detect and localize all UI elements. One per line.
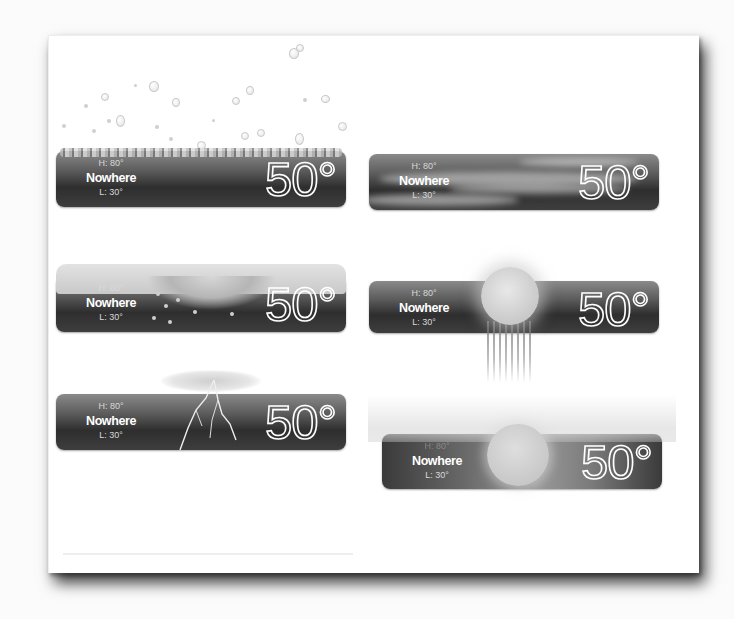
low-temp: L: 30° (369, 316, 479, 329)
divider-line (63, 553, 353, 555)
widget-info: H: 80° Nowhere L: 30° (382, 440, 492, 482)
weather-widget-windy-clouds[interactable]: H: 80° Nowhere L: 30° 50° (369, 154, 659, 210)
high-temp: H: 80° (56, 282, 166, 295)
widget-info: H: 80° Nowhere L: 30° (369, 287, 479, 329)
city-name: Nowhere (382, 453, 492, 469)
high-temp: H: 80° (382, 440, 492, 453)
low-temp: L: 30° (56, 311, 166, 324)
current-temperature: 50° (265, 149, 336, 209)
widget-info: H: 80° Nowhere L: 30° (369, 160, 479, 202)
weather-widget-sun-shower[interactable]: H: 80° Nowhere L: 30° 50° (369, 281, 659, 333)
current-temperature: 50° (578, 279, 649, 339)
low-temp: L: 30° (369, 189, 479, 202)
weather-widget-hazy-sun[interactable]: H: 80° Nowhere L: 30° 50° (382, 434, 662, 489)
current-temperature: 50° (578, 152, 649, 212)
weather-widget-snow[interactable]: H: 80° Nowhere L: 30° 50° (56, 276, 346, 332)
current-temperature: 50° (265, 274, 336, 334)
city-name: Nowhere (56, 170, 166, 186)
current-temperature: 50° (581, 432, 652, 492)
high-temp: H: 80° (56, 157, 166, 170)
city-name: Nowhere (369, 173, 479, 189)
low-temp: L: 30° (56, 429, 166, 442)
rain-streaks (487, 321, 533, 383)
weather-widget-rain[interactable]: H: 80° Nowhere L: 30° 50° (56, 151, 346, 207)
city-name: Nowhere (56, 413, 166, 429)
low-temp: L: 30° (56, 186, 166, 199)
widget-info: H: 80° Nowhere L: 30° (56, 157, 166, 199)
lightning-icon (166, 380, 256, 454)
current-temperature: 50° (265, 392, 336, 452)
haze-sun-icon (487, 424, 549, 486)
city-name: Nowhere (369, 300, 479, 316)
high-temp: H: 80° (56, 400, 166, 413)
weather-widget-thunderstorm[interactable]: H: 80° Nowhere L: 30° 50° (56, 394, 346, 450)
city-name: Nowhere (56, 295, 166, 311)
high-temp: H: 80° (369, 160, 479, 173)
high-temp: H: 80° (369, 287, 479, 300)
sun-rain-icon (481, 267, 539, 325)
widget-info: H: 80° Nowhere L: 30° (56, 282, 166, 324)
widget-info: H: 80° Nowhere L: 30° (56, 400, 166, 442)
widget-sheet: H: 80° Nowhere L: 30° 50° H: 80° Nowhere… (48, 35, 699, 573)
low-temp: L: 30° (382, 469, 492, 482)
